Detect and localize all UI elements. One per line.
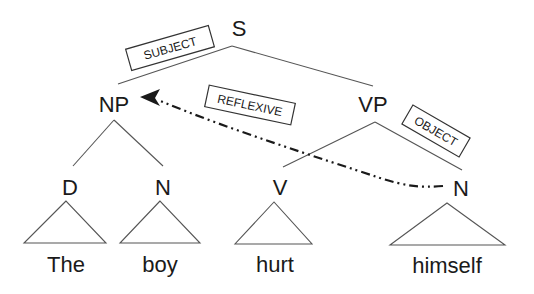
node-v: V <box>273 175 288 200</box>
node-vp: VP <box>358 92 387 117</box>
arrowhead-icon <box>140 89 160 106</box>
object-label-box: OBJECT <box>402 105 470 157</box>
node-s: S <box>232 16 247 41</box>
node-d: D <box>62 175 78 200</box>
triangle-himself <box>390 203 505 245</box>
edge-vp-v <box>283 122 375 167</box>
triangle-boy <box>120 201 200 243</box>
node-np: NP <box>99 92 130 117</box>
word-hurt: hurt <box>256 252 294 277</box>
reflexive-label-box: REFLEXIVE <box>205 85 296 125</box>
subject-label-box: SUBJECT <box>126 26 215 71</box>
triangle-the <box>24 201 106 243</box>
triangle-hurt <box>235 202 312 244</box>
word-the: The <box>47 252 85 277</box>
word-boy: boy <box>142 252 177 277</box>
edge-np-d <box>73 120 114 166</box>
reflexive-dependency-arrow <box>158 100 443 187</box>
edge-s-vp <box>232 46 373 86</box>
word-himself: himself <box>412 253 483 278</box>
syntax-tree-diagram: S NP VP D N V N The boy hurt himself SUB… <box>0 0 534 294</box>
node-n-himself: N <box>453 176 469 201</box>
edge-np-n <box>114 120 163 166</box>
node-n-boy: N <box>155 175 171 200</box>
